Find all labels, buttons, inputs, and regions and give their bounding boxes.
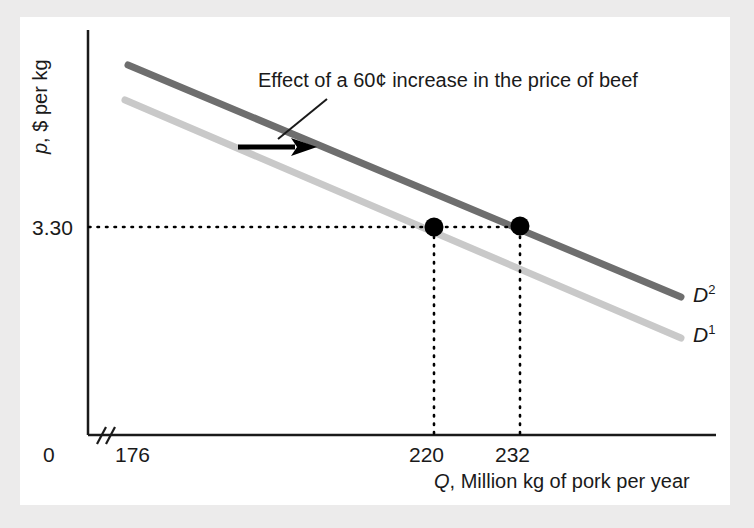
demand-curve-d2 — [128, 65, 681, 297]
data-point-marker-232 — [511, 217, 530, 236]
y-axis-title: p, $ per kg — [29, 59, 52, 154]
y-axis-tick-label-330: 3.30 — [32, 216, 73, 240]
chart-annotation-text: Effect of a 60¢ increase in the price of… — [258, 69, 638, 92]
demand-curve-d1 — [125, 100, 681, 338]
curve-label-d2-letter: D — [693, 283, 708, 306]
x-axis-tick-label-232: 232 — [495, 443, 530, 467]
x-axis-tick-label-220: 220 — [409, 443, 444, 467]
curve-label-d1-letter: D — [693, 323, 708, 346]
figure-root: p, $ per kg Q, Million kg of pork per ye… — [0, 0, 754, 528]
curve-label-d2-superscript: 2 — [708, 282, 715, 297]
curve-label-d1: D1 — [693, 322, 715, 347]
y-axis-variable: p — [29, 143, 51, 154]
x-axis-title: Q, Million kg of pork per year — [434, 470, 690, 493]
curve-label-d2: D2 — [693, 282, 715, 307]
x-axis-variable: Q — [434, 470, 450, 492]
data-point-marker-220 — [425, 218, 444, 237]
annotation-leader-line — [278, 99, 327, 139]
curve-label-d1-superscript: 1 — [708, 322, 715, 337]
x-axis-origin-label: 0 — [43, 443, 55, 467]
x-axis-tick-label-176: 176 — [115, 443, 150, 467]
